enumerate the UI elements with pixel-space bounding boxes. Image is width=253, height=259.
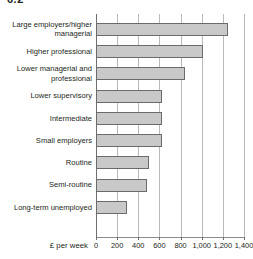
category-label: Lower managerial andprofessional [0, 63, 92, 85]
category-label: Large employers/highermanagerial [0, 18, 92, 40]
x-tick-1400 [244, 237, 245, 240]
bars-layer [96, 14, 244, 237]
category-label-line: Lower supervisory [0, 91, 92, 101]
plot-area [96, 14, 244, 237]
bar-row [96, 152, 244, 174]
x-tick-0 [96, 237, 97, 240]
category-label-line: Intermediate [0, 114, 92, 124]
x-axis-title: £ per week [0, 241, 88, 250]
figure-heading: 6.2 [7, 0, 24, 5]
bar-row [96, 196, 244, 218]
x-tick-1200 [223, 237, 224, 240]
category-label-line: Higher professional [0, 47, 92, 57]
x-tick-label: 200 [111, 241, 123, 250]
gridline-1400 [244, 14, 245, 237]
category-label-line: Small employers [0, 136, 92, 146]
x-tick-600 [159, 237, 160, 240]
category-label-line: Routine [0, 158, 92, 168]
category-label-line: Large employers/higher [0, 20, 92, 30]
category-label-line: Semi-routine [0, 180, 92, 190]
x-tick-1000 [202, 237, 203, 240]
x-tick-label: 1,400 [235, 241, 253, 250]
x-tick-label: 800 [174, 241, 186, 250]
bar-row [96, 130, 244, 152]
bar [96, 23, 228, 36]
bar-chart-figure: 6.2 Large employers/highermanagerialHigh… [0, 0, 253, 259]
x-tick-label: 0 [94, 241, 98, 250]
bar [96, 156, 149, 169]
bar-row [96, 174, 244, 196]
bar-row [96, 40, 244, 62]
x-tick-200 [117, 237, 118, 240]
x-tick-400 [138, 237, 139, 240]
category-axis-labels: Large employers/highermanagerialHigher p… [0, 14, 92, 237]
bar [96, 134, 162, 147]
x-axis-line [96, 237, 244, 238]
bar-row [96, 85, 244, 107]
bar-row [96, 18, 244, 40]
category-label-line: professional [0, 74, 92, 84]
category-label: Intermediate [0, 107, 92, 129]
category-label: Small employers [0, 130, 92, 152]
bar [96, 45, 203, 58]
x-tick-label: 600 [153, 241, 165, 250]
x-tick-800 [181, 237, 182, 240]
x-tick-label: 400 [132, 241, 144, 250]
category-label: Semi-routine [0, 174, 92, 196]
category-label-line: managerial [0, 29, 92, 39]
category-label: Long-term unemployed [0, 196, 92, 218]
bar [96, 90, 162, 103]
category-label: Lower supervisory [0, 85, 92, 107]
bar [96, 112, 162, 125]
bar-row [96, 107, 244, 129]
x-tick-label: 1,000 [192, 241, 211, 250]
bar [96, 179, 147, 192]
category-label: Higher professional [0, 40, 92, 62]
bar [96, 201, 127, 214]
bar [96, 67, 185, 80]
category-label: Routine [0, 152, 92, 174]
category-label-line: Long-term unemployed [0, 203, 92, 213]
bar-row [96, 63, 244, 85]
category-label-line: Lower managerial and [0, 64, 92, 74]
x-tick-label: 1,200 [214, 241, 233, 250]
